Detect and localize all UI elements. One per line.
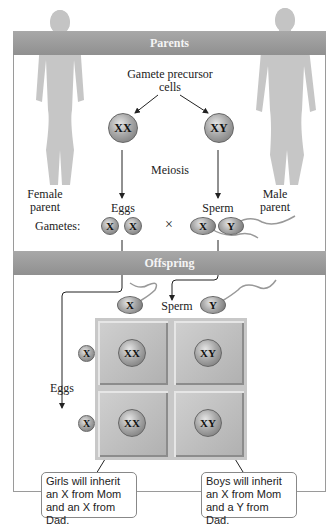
- male-parent-label: Male parent: [250, 188, 300, 214]
- sperm-gamete-y: Y: [218, 217, 244, 235]
- punnett-cell-1-1: XX: [95, 318, 171, 388]
- cross-symbol: ×: [162, 218, 176, 231]
- offspring-genotype: XX: [118, 339, 146, 367]
- sperm-label: Sperm: [196, 202, 240, 215]
- offspring-genotype: XX: [118, 409, 146, 437]
- girls-callout: Girls will inherit an X from Mom and an …: [41, 472, 137, 518]
- meiosis-label: Meiosis: [145, 164, 195, 177]
- sperm-header-x: X: [117, 296, 143, 314]
- eggs-label: Eggs: [105, 202, 141, 215]
- punnett-cell-1-2: XY: [171, 318, 247, 388]
- male-precursor-cell: XY: [204, 113, 234, 143]
- egg-gamete-2: X: [124, 217, 142, 235]
- gametes-label: Gametes:: [35, 220, 90, 233]
- sperm-header-y: Y: [200, 296, 226, 314]
- offspring-sperm-label: Sperm: [152, 300, 202, 313]
- egg-header-1: X: [78, 345, 95, 362]
- egg-gamete-1: X: [101, 217, 119, 235]
- female-parent-label: Female parent: [20, 188, 70, 214]
- female-precursor-cell: XX: [108, 113, 138, 143]
- offspring-genotype: XY: [194, 339, 222, 367]
- egg-header-2: X: [78, 415, 95, 432]
- offspring-genotype: XY: [194, 409, 222, 437]
- offspring-eggs-label: Eggs: [45, 382, 79, 395]
- punnett-cell-2-2: XY: [171, 388, 247, 460]
- offspring-band: Offspring: [13, 251, 326, 275]
- punnett-cell-2-1: XX: [95, 388, 171, 460]
- sperm-gamete-x: X: [190, 217, 216, 235]
- boys-callout: Boys will inherit an X from Mom and a Y …: [201, 472, 297, 518]
